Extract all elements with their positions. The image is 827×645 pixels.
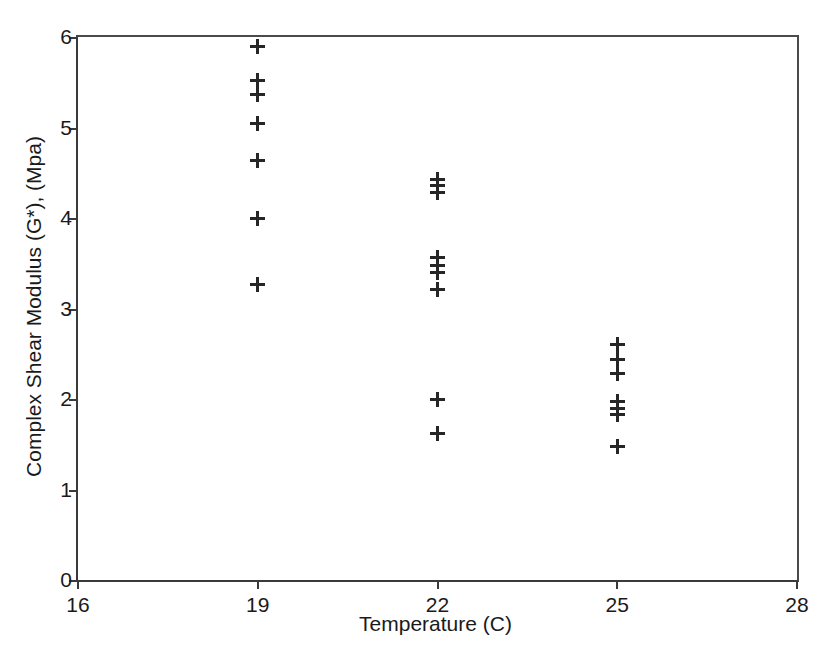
y-tick-label: 2 <box>60 386 72 412</box>
data-point-marker <box>610 394 625 409</box>
data-point-marker <box>610 407 625 422</box>
data-point-marker <box>250 87 265 102</box>
y-tick-label: 1 <box>60 477 72 503</box>
data-point-marker <box>430 172 445 187</box>
scatter-plot-figure: 0123456 1619222528 Temperature (C) Compl… <box>0 0 827 645</box>
data-point-marker <box>610 401 625 416</box>
data-point-marker <box>430 258 445 273</box>
x-tick-mark <box>257 580 259 589</box>
data-point-marker <box>250 153 265 168</box>
plot-area: 0123456 1619222528 <box>76 35 799 582</box>
x-axis-title: Temperature (C) <box>76 612 795 636</box>
x-tick-mark <box>616 580 618 589</box>
data-point-marker <box>430 392 445 407</box>
y-tick-label: 0 <box>60 567 72 593</box>
data-point-marker <box>430 178 445 193</box>
y-tick-label: 5 <box>60 115 72 141</box>
data-point-marker <box>430 185 445 200</box>
data-point-marker <box>250 39 265 54</box>
y-tick-label: 3 <box>60 296 72 322</box>
data-point-marker <box>250 277 265 292</box>
data-point-marker <box>610 352 625 367</box>
data-point-marker <box>430 426 445 441</box>
data-point-marker <box>430 282 445 297</box>
data-point-marker <box>250 116 265 131</box>
y-tick-label: 4 <box>60 205 72 231</box>
x-tick-mark <box>437 580 439 589</box>
data-point-marker <box>610 439 625 454</box>
y-axis-title: Complex Shear Modulus (G*), (Mpa) <box>22 35 52 578</box>
x-tick-mark <box>77 580 79 589</box>
data-point-marker <box>430 250 445 265</box>
data-point-marker <box>610 337 625 352</box>
data-point-marker <box>250 211 265 226</box>
data-point-marker <box>610 366 625 381</box>
y-tick-label: 6 <box>60 24 72 50</box>
data-point-marker <box>430 265 445 280</box>
x-tick-mark <box>796 580 798 589</box>
data-point-marker <box>250 73 265 88</box>
